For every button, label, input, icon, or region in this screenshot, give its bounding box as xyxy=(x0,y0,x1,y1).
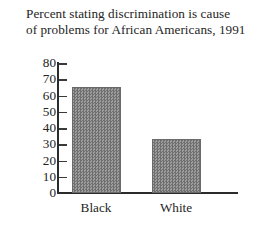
x-axis-label-white: White xyxy=(131,199,221,217)
y-tick-label: 50 xyxy=(22,103,56,120)
bar-white xyxy=(152,139,201,193)
y-tick-mark xyxy=(59,79,67,81)
y-tick-mark xyxy=(59,63,67,65)
y-tick-mark xyxy=(59,177,67,179)
y-tick-label: 60 xyxy=(22,87,56,104)
y-tick-mark xyxy=(59,128,67,130)
bar-black xyxy=(72,87,121,193)
y-tick-mark xyxy=(59,144,67,146)
y-tick-label: 80 xyxy=(22,54,56,71)
y-tick-label: 70 xyxy=(22,70,56,87)
y-tick-mark xyxy=(59,161,67,163)
y-tick-label: 40 xyxy=(22,119,56,136)
y-tick-mark xyxy=(59,112,67,114)
x-axis-label-black: Black xyxy=(51,199,141,217)
y-tick-label: 20 xyxy=(22,152,56,169)
bar-chart-figure: Percent stating discrimination is cause … xyxy=(0,0,263,237)
y-tick-label: 30 xyxy=(22,135,56,152)
y-tick-mark xyxy=(59,96,67,98)
plot-area: 80706050403020100 BlackWhite xyxy=(0,0,263,237)
y-tick-label: 10 xyxy=(22,168,56,185)
